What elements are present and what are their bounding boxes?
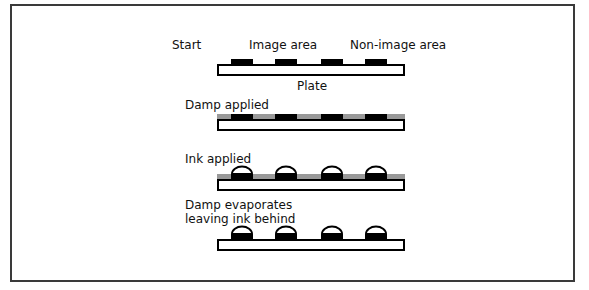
ink-dome — [366, 167, 386, 175]
plate — [218, 120, 404, 130]
image-area-block — [321, 114, 343, 119]
image-area-block — [275, 59, 297, 64]
ink-dome — [322, 167, 342, 175]
plate — [218, 65, 404, 75]
plate-diagram — [0, 0, 589, 290]
ink-dome — [276, 167, 296, 175]
image-area-block — [365, 59, 387, 64]
ink-dome — [366, 227, 386, 235]
image-area-block — [365, 114, 387, 119]
ink-dome — [322, 227, 342, 235]
image-area-block — [321, 59, 343, 64]
image-area-block — [231, 59, 253, 64]
plate — [218, 180, 404, 190]
ink-dome — [232, 167, 252, 175]
ink-dome — [276, 227, 296, 235]
image-area-block — [231, 114, 253, 119]
ink-dome — [232, 227, 252, 235]
plate — [218, 240, 404, 250]
image-area-block — [275, 114, 297, 119]
